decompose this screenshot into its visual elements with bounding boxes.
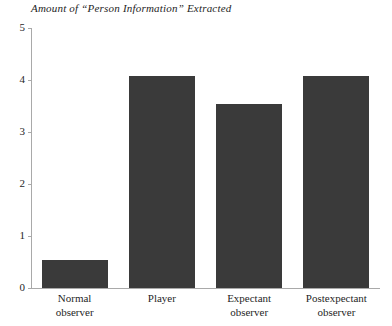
x-axis-category-label-line: Expectant	[206, 292, 293, 306]
plot-area	[31, 28, 380, 288]
x-axis-category-label: Postexpectantobserver	[293, 292, 380, 319]
x-axis-category-label: Normalobserver	[31, 292, 118, 319]
x-axis-category-label-line: observer	[206, 306, 293, 320]
x-axis-category-label-line: Postexpectant	[293, 292, 380, 306]
x-axis-category-label-line: Player	[118, 292, 205, 306]
x-axis-category-label-line: observer	[293, 306, 380, 320]
bar	[303, 76, 369, 288]
y-axis-tick-label: 4	[20, 72, 26, 87]
bar-chart-figure: Amount of “Person Information” Extracted…	[0, 0, 392, 326]
y-axis-tick-label: 2	[20, 176, 26, 191]
x-axis-line	[31, 288, 380, 289]
bar	[216, 104, 282, 288]
x-axis-category-label: Expectantobserver	[206, 292, 293, 319]
y-axis-tick-label: 5	[20, 20, 26, 35]
y-axis-tick-label: 3	[20, 124, 26, 139]
x-axis-category-label-line: observer	[31, 306, 118, 320]
bar	[42, 260, 108, 288]
x-axis-category-label: Player	[118, 292, 205, 306]
bar	[129, 76, 195, 288]
y-axis-tick-label: 1	[20, 228, 26, 243]
y-axis-tick-label: 0	[20, 280, 26, 295]
x-axis-category-label-line: Normal	[31, 292, 118, 306]
chart-title: Amount of “Person Information” Extracted	[31, 2, 232, 14]
